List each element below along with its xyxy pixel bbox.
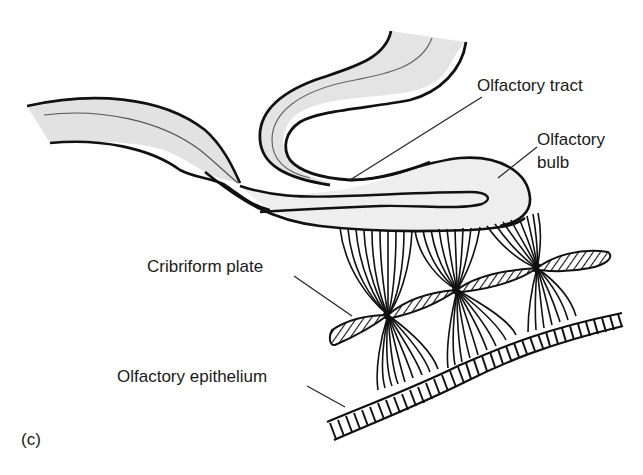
olfactory-tract-label: Olfactory tract <box>477 76 583 96</box>
olfactory-epithelium-label: Olfactory epithelium <box>117 367 267 387</box>
nerve-fibers <box>340 213 576 390</box>
cribriform-leader <box>294 276 352 316</box>
olfactory-bulb-shape <box>205 157 530 231</box>
olfactory-epithelium-band <box>327 313 623 440</box>
cribriform-plate-label: Cribriform plate <box>147 257 263 277</box>
olfactory-bulb-label-line1: Olfactory <box>537 130 605 150</box>
epithelium-leader <box>307 386 345 407</box>
olfactory-bulb-label-line2: bulb <box>537 153 569 173</box>
panel-label: (c) <box>21 430 41 450</box>
olfactory-system-diagram <box>0 0 643 475</box>
